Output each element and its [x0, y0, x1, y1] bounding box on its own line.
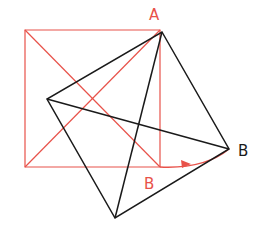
rotation-diagram: A B B — [0, 0, 268, 231]
rotated-diagonal-2 — [47, 99, 229, 149]
original-square — [25, 30, 160, 167]
label-b-original: B — [144, 175, 154, 193]
label-b-rotated: B — [238, 142, 248, 160]
rotation-arc — [160, 149, 229, 168]
rotated-diagonal-1 — [115, 32, 162, 218]
rotated-square — [47, 32, 229, 218]
label-a: A — [149, 6, 160, 24]
